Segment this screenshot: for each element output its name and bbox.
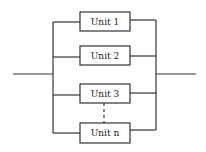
unit-n-label: Unit n xyxy=(91,128,120,138)
unit-2-block: Unit 2 xyxy=(53,46,156,65)
unit-n-block: Unit n xyxy=(53,123,156,143)
parallel-system-diagram: Unit 1 Unit 2 Unit 3 Unit n xyxy=(0,0,206,152)
unit-3-block: Unit 3 xyxy=(53,84,156,103)
unit-1-label: Unit 1 xyxy=(91,17,119,27)
unit-3-label: Unit 3 xyxy=(91,89,120,99)
unit-1-block: Unit 1 xyxy=(53,12,156,31)
unit-2-label: Unit 2 xyxy=(91,51,119,61)
